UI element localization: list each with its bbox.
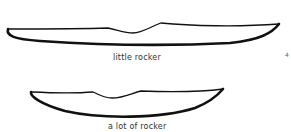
kayak-little-rocker (8, 23, 279, 45)
kayak-a-lot-of-rocker (31, 89, 223, 117)
kayak-label-a-lot-of-rocker: a lot of rocker (108, 122, 166, 131)
kayak-deck-line (8, 23, 279, 33)
kayak-label-little-rocker: little rocker (113, 53, 161, 62)
kayak-diagram (0, 0, 291, 132)
kayak-hull (8, 24, 279, 45)
page-mark: 4 (285, 51, 289, 58)
kayak-deck-line (31, 89, 223, 98)
